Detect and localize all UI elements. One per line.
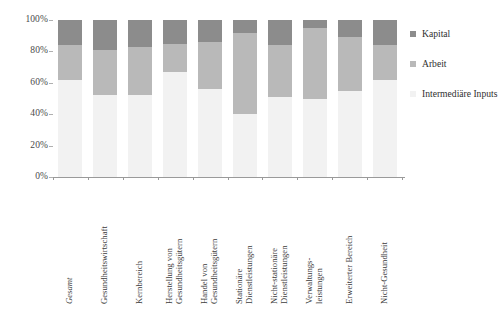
chart-legend: KapitalArbeitIntermediäre Inputs <box>410 28 502 118</box>
x-axis-tick-mark <box>193 177 194 180</box>
bar-column[interactable] <box>233 20 257 177</box>
bar-column[interactable] <box>268 20 292 177</box>
legend-swatch-icon <box>410 91 416 97</box>
legend-swatch-icon <box>410 61 416 67</box>
x-axis-label-line1: Nicht-Gesundheit <box>379 242 389 304</box>
x-axis-tick-mark <box>402 177 403 180</box>
bar-segment-intermediaere-inputs <box>128 95 152 177</box>
bar-column[interactable] <box>198 20 222 177</box>
x-axis-label-line1: Kernbereich <box>134 261 144 304</box>
x-axis-tick-mark <box>262 177 263 180</box>
x-axis-label-text: Handel vonGesundheitsgütern <box>200 239 219 304</box>
bar-segment-kapital <box>303 20 327 28</box>
legend-item[interactable]: Intermediäre Inputs <box>410 88 502 100</box>
y-axis: 100%80%60%40%20%0% <box>0 20 48 177</box>
y-axis-tick-mark <box>49 20 53 21</box>
bar-segment-intermediaere-inputs <box>93 95 117 177</box>
x-axis-label-line2: Dienstleistungen <box>245 245 255 304</box>
x-axis-tick-mark <box>297 177 298 180</box>
x-axis-tick-mark <box>158 177 159 180</box>
x-axis-label-text: Nicht-stationäreDienstleistungen <box>270 245 289 304</box>
bar-segment-intermediaere-inputs <box>268 97 292 177</box>
legend-label: Arbeit <box>422 58 502 70</box>
y-axis-tick-label: 0% <box>4 172 48 182</box>
bar-segment-intermediaere-inputs <box>373 80 397 177</box>
x-axis-label-line1: Gesamt <box>64 277 74 304</box>
bar-segment-arbeit <box>233 33 257 115</box>
bar-segment-kapital <box>93 20 117 50</box>
bar-column[interactable] <box>163 20 187 177</box>
x-axis-label-line1: Gesundheitswirtschaft <box>99 226 109 304</box>
bar-segment-arbeit <box>373 45 397 80</box>
bar-segment-kapital <box>233 20 257 33</box>
bar-segment-kapital <box>128 20 152 47</box>
bar-segment-kapital <box>373 20 397 45</box>
bar-segment-arbeit <box>338 37 362 90</box>
x-axis-label-line1: Nicht-stationäre <box>269 248 279 304</box>
bar-segment-arbeit <box>303 28 327 99</box>
bar-column[interactable] <box>373 20 397 177</box>
x-axis-label-line2: Gesundheitsgütern <box>210 239 220 304</box>
y-axis-tick-mark <box>49 114 53 115</box>
bar-segment-kapital <box>268 20 292 45</box>
y-axis-tick-label: 60% <box>4 78 48 88</box>
bar-column[interactable] <box>93 20 117 177</box>
legend-label: Kapital <box>422 28 502 40</box>
bar-segment-arbeit <box>93 50 117 96</box>
legend-label: Intermediäre Inputs <box>422 88 502 100</box>
bar-segment-intermediaere-inputs <box>303 99 327 178</box>
bar-segment-kapital <box>58 20 82 45</box>
x-axis-label-line2: Gesundheitsgütern <box>175 239 185 304</box>
plot-area <box>53 20 402 177</box>
bar-segment-kapital <box>338 20 362 37</box>
y-axis-tick-mark <box>49 146 53 147</box>
bar-segment-arbeit <box>128 47 152 96</box>
bar-column[interactable] <box>58 20 82 177</box>
x-axis-label-text: Erweiterter Bereich <box>345 236 355 304</box>
bar-segment-intermediaere-inputs <box>198 89 222 177</box>
x-axis-label-text: Gesamt <box>65 277 75 304</box>
x-axis-label-text: Kernbereich <box>135 261 145 304</box>
bar-segment-arbeit <box>163 44 187 72</box>
bar-segment-intermediaere-inputs <box>233 114 257 177</box>
bar-segment-kapital <box>163 20 187 44</box>
x-axis-label-line1: Erweiterter Bereich <box>344 236 354 304</box>
x-axis-tick-mark <box>332 177 333 180</box>
bar-segment-arbeit <box>198 42 222 89</box>
x-axis-label-line2: leistungen <box>314 258 324 304</box>
bar-segment-intermediaere-inputs <box>338 91 362 177</box>
bar-column[interactable] <box>128 20 152 177</box>
x-axis-label-line1: Handel von <box>199 264 209 304</box>
x-axis-labels: GesamtGesundheitswirtschaftKernbereichHe… <box>53 180 402 308</box>
y-axis-tick-label: 40% <box>4 109 48 119</box>
x-axis-tick-mark <box>123 177 124 180</box>
x-axis-label-line1: Herstellung von <box>164 248 174 304</box>
stacked-bar-chart: 100%80%60%40%20%0% GesamtGesundheitswirt… <box>0 0 504 310</box>
x-axis-label-text: StationäreDienstleistungen <box>235 245 254 304</box>
bar-segment-arbeit <box>58 45 82 80</box>
y-axis-tick-mark <box>49 51 53 52</box>
bar-column[interactable] <box>338 20 362 177</box>
legend-swatch-icon <box>410 31 416 37</box>
bar-segment-arbeit <box>268 45 292 97</box>
x-axis-label-text: Herstellung vonGesundheitsgütern <box>165 239 184 304</box>
x-axis-tick-mark <box>367 177 368 180</box>
legend-item[interactable]: Arbeit <box>410 58 502 70</box>
legend-item[interactable]: Kapital <box>410 28 502 40</box>
x-axis-tick-mark <box>88 177 89 180</box>
x-axis-tick-mark <box>53 177 54 180</box>
x-axis-label-text: Gesundheitswirtschaft <box>100 226 110 304</box>
bar-segment-intermediaere-inputs <box>58 80 82 177</box>
bar-column[interactable] <box>303 20 327 177</box>
bar-segment-kapital <box>198 20 222 42</box>
x-axis-label-line2: Dienstleistungen <box>279 245 289 304</box>
y-axis-tick-label: 20% <box>4 141 48 151</box>
bar-segment-intermediaere-inputs <box>163 72 187 177</box>
x-axis-tick-mark <box>228 177 229 180</box>
x-axis-label-text: Verwaltungs-leistungen <box>305 258 324 304</box>
x-axis-label-line1: Stationäre <box>234 269 244 304</box>
y-axis-tick-label: 100% <box>4 15 48 25</box>
y-axis-tick-mark <box>49 83 53 84</box>
y-axis-tick-label: 80% <box>4 46 48 56</box>
x-axis-label-text: Nicht-Gesundheit <box>380 242 390 304</box>
